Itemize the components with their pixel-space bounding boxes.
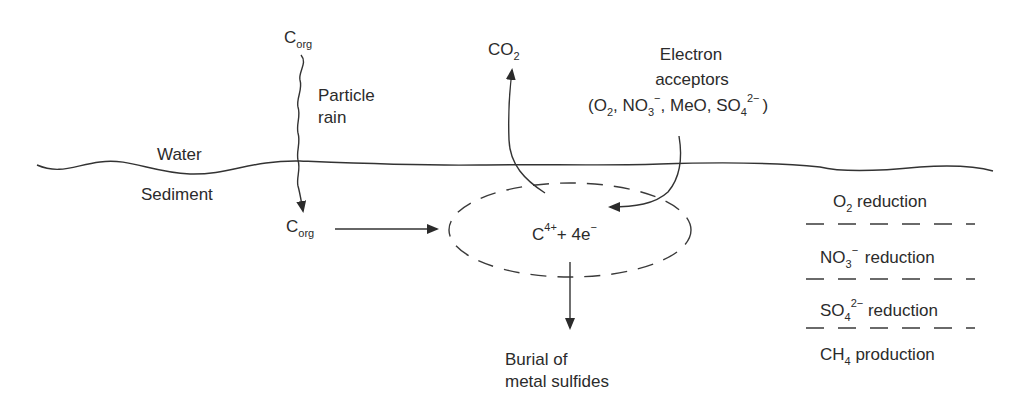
zone-no3-reduction: NO3− reduction xyxy=(820,244,935,270)
electron-acceptor-arrow xyxy=(610,136,681,207)
particle-rain-label-line2: rain xyxy=(318,108,346,127)
zone-o2-reduction: O2 reduction xyxy=(833,192,927,214)
redox-zones: O2 reduction NO3− reduction SO42− reduct… xyxy=(806,192,975,367)
water-label: Water xyxy=(157,145,202,164)
burial-label-line2: metal sulfides xyxy=(505,372,609,391)
electron-acceptors-label-line2: acceptors xyxy=(655,70,729,89)
co2-label: CO2 xyxy=(488,40,520,62)
particle-rain-arrow xyxy=(298,55,304,211)
carbon-diagenesis-diagram: Water Sediment Corg Particle rain Corg C… xyxy=(0,0,1020,409)
particle-rain-label: Particle xyxy=(318,86,375,105)
electron-acceptors-label: Electron xyxy=(660,45,722,64)
sediment-label: Sediment xyxy=(141,185,213,204)
corg-sediment-label: Corg xyxy=(286,217,314,239)
corg-source-label: Corg xyxy=(284,28,312,50)
zone-ch4-production: CH4 production xyxy=(820,345,935,367)
burial-label: Burial of xyxy=(505,350,568,369)
reaction-label: C4++ 4e− xyxy=(532,221,597,244)
co2-release-arrow xyxy=(509,70,545,193)
zone-so4-reduction: SO42− reduction xyxy=(820,297,938,323)
electron-acceptors-list: (O2, NO3−, MeO, SO42−) xyxy=(588,92,768,118)
